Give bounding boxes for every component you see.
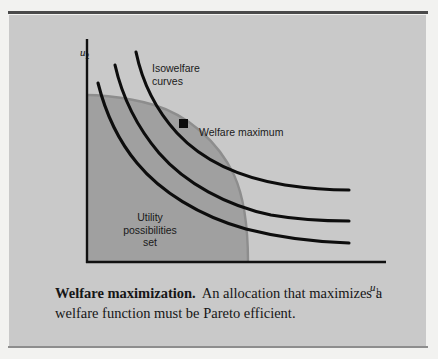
utility-possibilities-set-label: Utilitypossibilitiesset — [113, 211, 187, 249]
welfare-maximum-marker — [179, 119, 188, 128]
welfare-maximum-label: Welfare maximum — [199, 126, 283, 139]
caption-title: Welfare maximization. — [55, 285, 196, 301]
top-rule — [8, 11, 428, 14]
figure-page: u2 u1 Isowelfarecurves Welfare maximum U… — [0, 0, 438, 359]
bottom-rule — [8, 346, 428, 348]
figure-caption: Welfare maximization.An allocation that … — [55, 283, 400, 323]
y-axis-label: u2 — [80, 46, 89, 61]
welfare-maximization-plot — [9, 15, 426, 290]
isowelfare-curves-label: Isowelfarecurves — [152, 62, 200, 87]
